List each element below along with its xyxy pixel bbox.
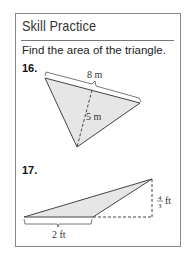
base-label-17: 2 ft [52,229,66,240]
base-label-16: 8 m [87,69,103,80]
height-den-17: 3 [158,202,162,210]
base-brace-17 [24,219,92,227]
triangle-figures: 8 m 5 m 2 ft 4 3 ft [0,0,196,267]
height-label-16: 5 m [86,111,102,122]
triangle-16: 8 m 5 m [45,69,141,147]
triangle-17: 2 ft 4 3 ft [24,179,171,240]
height-unit-17: ft [165,195,171,206]
